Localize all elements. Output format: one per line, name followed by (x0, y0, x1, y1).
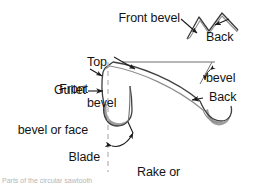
label-rake-or-hook-angle: Rake or hook angle (positive rake) (137, 139, 255, 186)
label-back-bevel-top-line2: bevel (206, 72, 256, 86)
sawtooth-diagram-figure: Front bevel Back bevel Top bevel Front b… (0, 0, 256, 186)
label-blade-center-line-line1: Blade (14, 151, 100, 165)
label-top-bevel: Top bevel (87, 29, 137, 137)
figure-caption: Parts of the circular sawtooth (2, 177, 92, 185)
label-gullet: Gullet (0, 84, 86, 98)
label-top-bevel-line1: Top (87, 56, 137, 70)
label-rake-line1: Rake or (137, 166, 255, 180)
label-back: Back (209, 91, 255, 105)
label-front-bevel-top: Front bevel (88, 12, 180, 26)
label-top-bevel-line2: bevel (87, 97, 137, 111)
label-back-bevel-top-line1: Back (206, 31, 256, 45)
